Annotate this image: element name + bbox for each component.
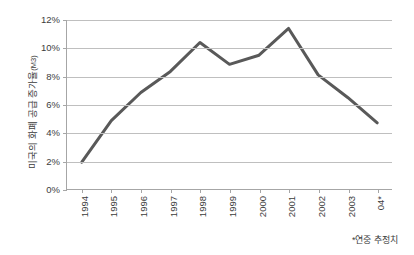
chart-footnote: *연중 추정치 <box>352 233 398 246</box>
plot-area <box>66 20 392 190</box>
y-axis-tick-label: 10% <box>41 44 60 54</box>
x-axis-tick-label: 1995 <box>110 196 120 217</box>
y-axis-tick-mark <box>63 77 67 78</box>
gridline <box>67 162 392 163</box>
y-axis-tick-label: 12% <box>41 15 60 25</box>
x-axis-tick-label: 04* <box>376 196 386 210</box>
y-axis-tick-label: 8% <box>46 72 60 82</box>
x-axis-tick-label: 2001 <box>288 196 298 217</box>
chart-container: 미국의 화폐 공급 증가율(M3) 0%2%4%6%8%10%12% 19941… <box>0 0 414 255</box>
y-axis-tick-label: 0% <box>46 185 60 195</box>
x-axis-tick-label: 2002 <box>317 196 327 217</box>
x-axis-tick-label: 1998 <box>199 196 209 217</box>
y-axis-tick-label: 2% <box>46 157 60 167</box>
gridline <box>67 133 392 134</box>
y-axis-tick-labels: 0%2%4%6%8%10%12% <box>30 20 64 190</box>
x-axis-tick-label: 2000 <box>258 196 268 217</box>
y-axis-tick-mark <box>63 133 67 134</box>
x-axis-tick-label: 1997 <box>169 196 179 217</box>
gridline <box>67 20 392 21</box>
y-axis-tick-mark <box>63 20 67 21</box>
y-axis-tick-mark <box>63 162 67 163</box>
y-axis-tick-label: 6% <box>46 100 60 110</box>
x-axis-tick-label: 1996 <box>139 196 149 217</box>
gridline <box>67 77 392 78</box>
gridline <box>67 48 392 49</box>
x-axis-tick-label: 1994 <box>80 196 90 217</box>
x-axis-tick-label: 2003 <box>347 196 357 217</box>
y-axis-tick-label: 4% <box>46 129 60 139</box>
gridline <box>67 105 392 106</box>
y-axis-tick-mark <box>63 105 67 106</box>
x-axis-tick-label: 1999 <box>228 196 238 217</box>
y-axis-tick-mark <box>63 48 67 49</box>
x-axis-tick-labels: 1994199519961997199819992000200120022003… <box>66 190 392 240</box>
